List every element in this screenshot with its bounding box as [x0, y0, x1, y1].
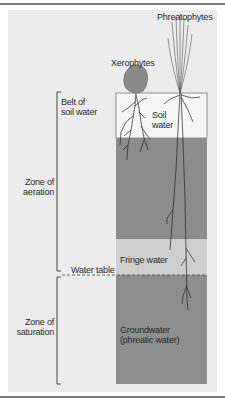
xerophyte-canopy-icon [124, 65, 148, 93]
phreatophyte-stems-icon [168, 14, 192, 93]
belt-of-soil-water-label: Belt of soil water [61, 97, 97, 117]
groundwater-label: Groundwater (phreatic water) [120, 325, 179, 345]
phreatophytes-label: Phreatophytes [157, 12, 212, 22]
fringe-water-label: Fringe water [120, 255, 168, 265]
zone-of-aeration-label: Zone of aeration [8, 177, 54, 197]
bottom-rule [0, 396, 225, 398]
zone-of-saturation-label: Zone of saturation [8, 317, 54, 337]
saturation-bracket [57, 277, 61, 384]
xerophytes-label: Xerophytes [111, 58, 155, 68]
aeration-bracket [57, 92, 61, 271]
intermediate-zone-layer [116, 138, 207, 239]
soil-water-label: Soil water [152, 110, 173, 130]
water-table-label: Water table [71, 265, 115, 275]
